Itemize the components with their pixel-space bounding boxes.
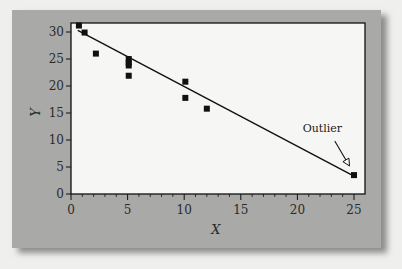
data-point-marker [204, 106, 210, 112]
x-tick-label: 5 [124, 203, 132, 217]
data-point-marker [182, 79, 188, 85]
y-tick-label: 15 [49, 106, 64, 120]
data-point-marker [182, 95, 188, 101]
x-tick-label: 25 [346, 203, 361, 217]
data-point-marker [126, 62, 132, 68]
y-tick-label: 5 [56, 160, 64, 174]
y-axis-ticks: 051015202530 [49, 25, 71, 201]
y-tick-label: 0 [56, 187, 64, 201]
x-axis-title: X [210, 222, 221, 237]
data-point-marker [351, 172, 357, 178]
x-tick-label: 0 [67, 203, 75, 217]
outlier-label: Outlier [303, 122, 343, 135]
y-tick-label: 30 [49, 25, 64, 39]
data-point-marker [82, 30, 88, 36]
y-tick-label: 20 [49, 79, 64, 93]
y-tick-label: 25 [49, 52, 64, 66]
y-axis-title: Y [28, 107, 43, 117]
x-tick-label: 15 [233, 203, 248, 217]
plot-area [71, 23, 365, 194]
x-axis-ticks: 0510152025 [67, 194, 361, 217]
x-tick-label: 20 [290, 203, 305, 217]
data-point-marker [126, 73, 132, 79]
data-point-marker [76, 23, 82, 29]
x-tick-label: 10 [177, 203, 192, 217]
scatter-chart: 0510152025 051015202530 Outlier X Y [0, 0, 402, 269]
y-tick-label: 10 [49, 133, 64, 147]
data-point-marker [93, 51, 99, 57]
